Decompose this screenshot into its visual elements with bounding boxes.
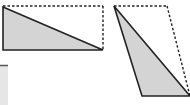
diagram-canvas [0, 0, 190, 105]
right-triangle [3, 7, 103, 50]
partial-box [0, 65, 8, 105]
parallelogram-figure [114, 6, 190, 96]
rectangle-figure [3, 6, 103, 50]
